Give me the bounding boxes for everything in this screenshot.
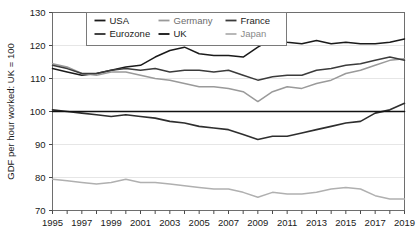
x-tick-label-2005: 2005 (189, 217, 210, 228)
series-line-france (53, 57, 405, 80)
legend-label-japan[interactable]: Japan (241, 28, 267, 39)
x-tick-label-1999: 1999 (101, 217, 122, 228)
x-tick-label-2015: 2015 (335, 217, 356, 228)
legend-label-usa[interactable]: USA (110, 15, 130, 26)
series-line-eurozone (53, 103, 405, 139)
y-tick-label-90: 90 (35, 139, 46, 150)
series-line-japan (53, 179, 405, 199)
y-tick-label-70: 70 (35, 205, 46, 216)
y-tick-label-120: 120 (30, 40, 46, 51)
x-tick-label-2019: 2019 (394, 217, 415, 228)
y-tick-label-100: 100 (30, 106, 46, 117)
top-margin-spacer (0, 0, 418, 6)
legend-label-france[interactable]: France (241, 15, 271, 26)
x-tick-label-2007: 2007 (218, 217, 239, 228)
legend-label-eurozone[interactable]: Eurozone (110, 28, 151, 39)
legend-label-germany[interactable]: Germany (174, 15, 213, 26)
x-tick-label-2003: 2003 (159, 217, 180, 228)
x-tick-label-2017: 2017 (365, 217, 386, 228)
y-tick-label-80: 80 (35, 172, 46, 183)
x-tick-label-2001: 2001 (130, 217, 151, 228)
x-tick-label-1997: 1997 (71, 217, 92, 228)
y-tick-label-110: 110 (30, 73, 45, 84)
x-tick-label-2011: 2011 (277, 217, 297, 228)
y-tick-label-130: 130 (30, 7, 46, 18)
x-tick-label-2013: 2013 (306, 217, 327, 228)
line-chart: 7080901001101201301995199719992001200320… (0, 0, 418, 238)
y-axis-title: GDF per hour worked: UK = 100 (5, 43, 16, 180)
legend-label-uk[interactable]: UK (174, 28, 188, 39)
x-tick-label-1995: 1995 (42, 217, 63, 228)
x-tick-label-2009: 2009 (247, 217, 268, 228)
chart-figure: 7080901001101201301995199719992001200320… (0, 0, 418, 238)
